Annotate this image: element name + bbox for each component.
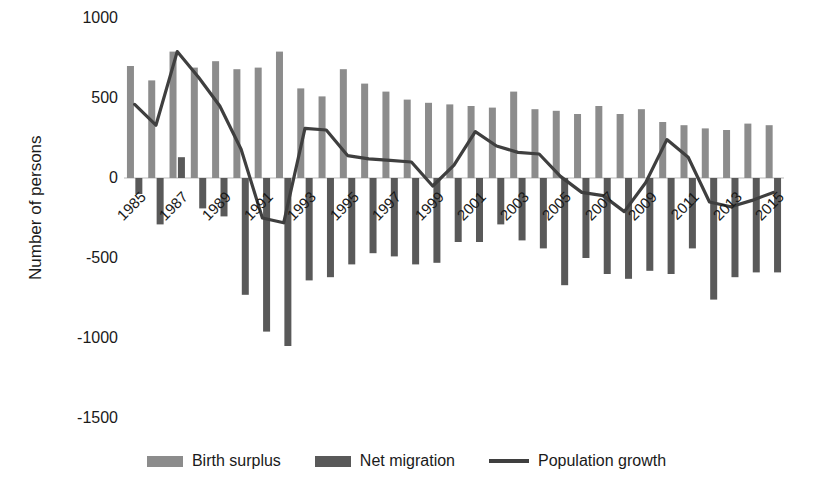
legend-label: Birth surplus [192, 452, 281, 470]
legend-item[interactable]: Net migration [315, 452, 455, 470]
legend-label: Net migration [360, 452, 455, 470]
x-axis-ticks: 1985198719891991199319951997199920012003… [124, 0, 804, 498]
y-axis-tick-label: -500 [48, 249, 118, 267]
chart-legend: Birth surplusNet migrationPopulation gro… [0, 452, 813, 470]
y-axis-tick-label: 500 [48, 89, 118, 107]
legend-item[interactable]: Birth surplus [147, 452, 281, 470]
y-axis-ticks: 10005000-500-1000-1500 [0, 0, 118, 498]
y-axis-tick-label: -1500 [48, 409, 118, 427]
population-chart: Number of persons 10005000-500-1000-1500… [0, 0, 813, 498]
legend-bar-swatch [315, 456, 351, 467]
y-axis-tick-label: 0 [48, 169, 118, 187]
y-axis-tick-label: 1000 [48, 9, 118, 27]
y-axis-tick-label: -1000 [48, 329, 118, 347]
legend-item[interactable]: Population growth [489, 452, 666, 470]
legend-bar-swatch [147, 456, 183, 467]
legend-line-swatch [489, 459, 529, 463]
legend-label: Population growth [538, 452, 666, 470]
